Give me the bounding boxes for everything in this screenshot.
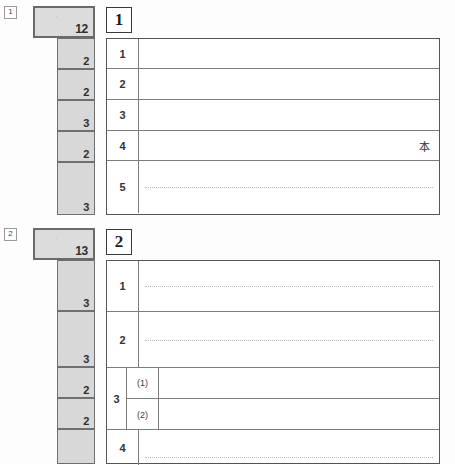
score-box-section-1-item-5[interactable]: 3	[57, 162, 95, 215]
table-row: 4 本	[107, 131, 439, 161]
row-number: 3	[107, 100, 139, 130]
score-denominator: 2	[83, 415, 89, 427]
score-denominator: 2	[83, 384, 89, 396]
row-number: 5	[107, 161, 139, 213]
table-row: 2	[107, 69, 439, 100]
score-slash-icon	[57, 79, 74, 95]
section-marker-2: 2	[4, 228, 17, 241]
writing-guide-line	[145, 286, 433, 287]
row-number: 2	[107, 69, 139, 99]
writing-guide-line	[145, 457, 433, 458]
score-box-total-section-1[interactable]: 12	[33, 6, 95, 38]
score-slash-icon	[57, 377, 74, 393]
row-number: 4	[107, 430, 139, 465]
score-box-section-1-item-1[interactable]: 2	[57, 38, 95, 69]
table-row-group: 3 (1) (2)	[107, 368, 439, 430]
score-box-total-section-2[interactable]: 13	[33, 228, 95, 260]
score-box-section-1-item-3[interactable]: 3	[57, 100, 95, 131]
score-slash-icon	[57, 194, 74, 210]
answer-field-1-4[interactable]: 本	[139, 131, 439, 160]
score-slash-icon	[57, 408, 74, 424]
score-box-section-2-item-5[interactable]	[57, 429, 95, 464]
table-row: 3	[107, 100, 439, 131]
table-row: 1	[107, 39, 439, 69]
answer-field-1-2[interactable]	[139, 69, 439, 99]
answer-field-2-2[interactable]	[139, 312, 439, 367]
section-number-2: 2	[106, 229, 132, 255]
row-number: 4	[107, 131, 139, 160]
table-row: 4	[107, 430, 439, 465]
answer-field-2-3-2[interactable]	[159, 399, 439, 430]
score-denominator: 3	[83, 353, 89, 365]
score-denominator: 3	[83, 297, 89, 309]
table-row: 5	[107, 161, 439, 213]
score-slash-icon	[56, 16, 73, 32]
score-box-section-1-item-4[interactable]: 2	[57, 131, 95, 162]
score-slash-icon	[57, 141, 74, 157]
writing-guide-line	[145, 340, 433, 341]
score-denominator: 2	[83, 55, 89, 67]
section-marker-1: 1	[4, 6, 17, 19]
answer-field-2-3-1[interactable]	[159, 368, 439, 398]
score-denominator: 13	[75, 245, 88, 257]
score-denominator: 12	[75, 23, 88, 35]
section-number-1: 1	[106, 7, 132, 33]
score-box-section-2-item-2[interactable]: 3	[57, 311, 95, 367]
score-box-section-2-item-3[interactable]: 2	[57, 367, 95, 398]
subrow-label: (2)	[127, 399, 159, 430]
row-number: 1	[107, 261, 139, 311]
answer-field-1-1[interactable]	[139, 39, 439, 68]
score-box-section-2-item-4[interactable]: 2	[57, 398, 95, 429]
table-row: 1	[107, 261, 439, 312]
score-denominator: 3	[83, 201, 89, 213]
score-box-section-2-item-1[interactable]: 3	[57, 260, 95, 311]
writing-guide-line	[145, 187, 433, 188]
row-number: 3	[107, 368, 127, 429]
subrow-container: (1) (2)	[127, 368, 439, 429]
answer-table-section-1: 1 2 3 4 本 5	[106, 38, 440, 215]
answer-field-2-1[interactable]	[139, 261, 439, 311]
score-denominator: 3	[83, 117, 89, 129]
score-denominator: 2	[83, 148, 89, 160]
score-denominator: 2	[83, 86, 89, 98]
score-slash-icon	[57, 48, 74, 64]
table-subrow: (1)	[127, 368, 439, 399]
answer-field-1-5[interactable]	[139, 161, 439, 213]
score-slash-icon	[57, 290, 74, 306]
score-slash-icon	[57, 110, 74, 126]
score-slash-icon	[57, 346, 74, 362]
score-box-section-1-item-2[interactable]: 2	[57, 69, 95, 100]
table-row: 2	[107, 312, 439, 368]
subrow-label: (1)	[127, 368, 159, 398]
row-number: 1	[107, 39, 139, 68]
row-number: 2	[107, 312, 139, 367]
answer-unit-label: 本	[419, 138, 430, 154]
answer-field-1-3[interactable]	[139, 100, 439, 130]
table-subrow: (2)	[127, 399, 439, 430]
answer-table-section-2: 1 2 3 (1) (2)	[106, 260, 440, 464]
score-slash-icon	[56, 238, 73, 254]
answer-field-2-4[interactable]	[139, 430, 439, 465]
